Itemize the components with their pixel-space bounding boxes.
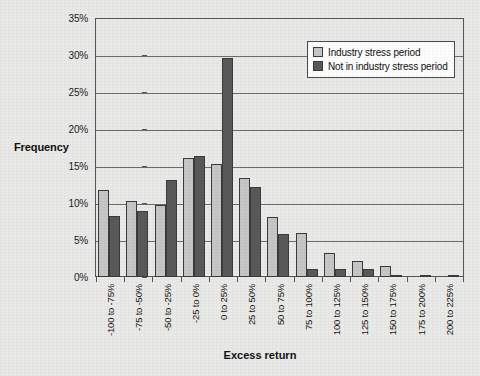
x-tick-mark [322, 277, 323, 282]
x-tick-mark [435, 277, 436, 282]
bar-group [209, 19, 237, 277]
x-tick-label: -100 to -75% [105, 284, 116, 336]
x-axis-labels: -100 to -75%-75 to -50%-50 to -25%-25 to… [96, 284, 463, 346]
x-tick-mark [407, 277, 408, 282]
x-tick-label: 50 to 75% [275, 284, 286, 325]
excess-return-histogram: Frequency 0%5%10%15%20%25%30%35% -100 to… [0, 0, 480, 376]
x-tick-label: -50 to -25% [162, 284, 173, 331]
y-tick-label: 20% [69, 124, 88, 135]
y-tick-label: 30% [69, 50, 88, 61]
x-tick-mark [209, 277, 210, 282]
bar [109, 216, 120, 277]
legend-item: Industry stress period [313, 45, 448, 59]
x-tick-label: -75 to -50% [133, 284, 144, 331]
legend-swatch-icon [313, 61, 323, 71]
bar [126, 201, 137, 277]
bar-group [96, 19, 124, 277]
x-tick-mark [152, 277, 153, 282]
y-tick-label: 35% [69, 13, 88, 24]
x-tick-label: 75 to 100% [303, 284, 314, 330]
bar-group [181, 19, 209, 277]
bar [239, 178, 250, 277]
x-tick-mark [237, 277, 238, 282]
bar [278, 234, 289, 277]
bar [335, 269, 346, 277]
y-tick-label: 0% [74, 272, 88, 283]
y-tick-label: 15% [69, 161, 88, 172]
bar [267, 217, 278, 277]
bar [137, 211, 148, 277]
bar-group [152, 19, 180, 277]
bar [380, 266, 391, 277]
bar-group [237, 19, 265, 277]
y-tick-label: 5% [74, 235, 88, 246]
chart-legend: Industry stress periodNot in industry st… [307, 41, 455, 78]
x-tick-mark [96, 277, 97, 282]
x-tick-mark [265, 277, 266, 282]
bar [183, 158, 194, 277]
bar [211, 164, 222, 277]
x-tick-mark [378, 277, 379, 282]
x-tick-mark [463, 277, 464, 282]
bar [324, 253, 335, 277]
legend-label: Industry stress period [328, 47, 420, 58]
x-tick-label: 25 to 50% [246, 284, 257, 325]
bar [352, 261, 363, 277]
x-tick-mark [124, 277, 125, 282]
x-tick-label: 200 to 225% [444, 284, 455, 335]
bar [296, 233, 307, 277]
bar [98, 190, 109, 277]
x-tick-label: -25 to 0% [190, 284, 201, 323]
bar [166, 180, 177, 277]
legend-label: Not in industry stress period [328, 61, 448, 72]
y-axis: 0%5%10%15%20%25%30%35% [52, 18, 88, 277]
x-tick-label: 150 to 175% [387, 284, 398, 335]
x-tick-mark [181, 277, 182, 282]
y-tick-label: 10% [69, 198, 88, 209]
bar-group [124, 19, 152, 277]
x-axis-ticks [96, 277, 463, 282]
x-tick-mark [350, 277, 351, 282]
legend-swatch-icon [313, 47, 323, 57]
bar [155, 205, 166, 277]
x-axis-title: Excess return [0, 349, 480, 361]
legend-item: Not in industry stress period [313, 59, 448, 73]
bar [194, 156, 205, 277]
bar-group [265, 19, 293, 277]
x-tick-label: 0 to 25% [218, 284, 229, 320]
x-tick-label: 100 to 125% [331, 284, 342, 335]
bar [307, 269, 318, 277]
x-tick-mark [294, 277, 295, 282]
bar [222, 58, 233, 277]
y-tick-label: 25% [69, 87, 88, 98]
x-tick-label: 125 to 150% [359, 284, 370, 335]
x-tick-label: 175 to 200% [416, 284, 427, 335]
bar [363, 269, 374, 277]
bar [250, 187, 261, 277]
